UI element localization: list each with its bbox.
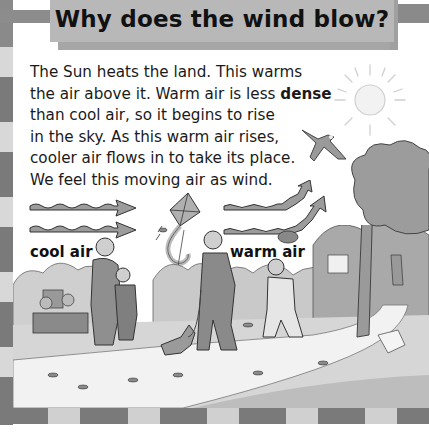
page-frame: Why does the wind blow? The Sun heats th… — [0, 0, 429, 432]
title-banner: Why does the wind blow? — [50, 0, 394, 42]
bold-term: dense — [280, 85, 331, 103]
top-band-right — [395, 4, 429, 22]
left-checker-border — [0, 0, 13, 425]
paragraph-line: the air above it. Warm air is less dense — [30, 84, 330, 106]
title-banner-shadow — [58, 42, 398, 50]
paragraph-line: than cool air, so it begins to rise — [30, 105, 330, 127]
paragraph-line: in the sky. As this warm air rises, — [30, 127, 330, 149]
explanation-paragraph: The Sun heats the land. This warms the a… — [30, 62, 330, 191]
page-title: Why does the wind blow? — [50, 6, 394, 32]
paragraph-line: cooler air flows in to take its place. — [30, 148, 330, 170]
tree-canopy-illustration — [345, 140, 429, 250]
paragraph-line: The Sun heats the land. This warms — [30, 62, 330, 84]
bottom-checker-border — [0, 408, 429, 424]
park-scene-illustration — [13, 225, 429, 408]
